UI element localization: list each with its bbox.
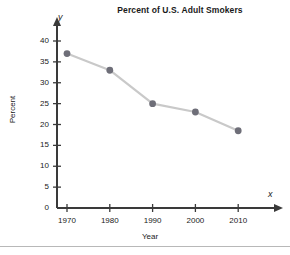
- data-point: [64, 50, 71, 57]
- axis-lines: [53, 17, 283, 212]
- chart-figure: Percent of U.S. Adult Smokers y x Percen…: [0, 0, 290, 255]
- data-point: [192, 109, 199, 116]
- data-point: [149, 100, 156, 107]
- data-point: [106, 67, 113, 74]
- footer-divider: [0, 246, 290, 247]
- data-line: [67, 54, 238, 131]
- data-point: [235, 127, 242, 134]
- plot-area: [0, 0, 290, 255]
